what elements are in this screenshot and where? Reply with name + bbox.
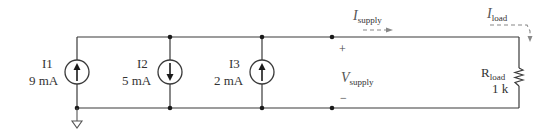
- i1-name-label: I1: [42, 56, 53, 71]
- i-supply-label: Isupply: [352, 8, 382, 25]
- node-dot: [260, 106, 265, 111]
- ground-icon: [72, 108, 82, 128]
- i-supply-arrow-icon: [363, 28, 393, 33]
- circuit-diagram: I1 9 mA I2 5 mA I3 2 mA + − Vsupply Isup…: [0, 0, 557, 138]
- plus-sign: +: [339, 42, 346, 56]
- supply-node-top: [330, 35, 335, 40]
- current-source-i3: [250, 37, 274, 108]
- resistor-icon: [515, 68, 523, 86]
- minus-sign: −: [340, 91, 347, 105]
- i2-name-label: I2: [137, 56, 148, 71]
- i2-value-label: 5 mA: [122, 73, 152, 88]
- r-load-value: 1 k: [492, 81, 509, 96]
- supply-node-bottom: [330, 106, 335, 111]
- current-source-i1: [65, 37, 89, 108]
- node-dot: [168, 35, 173, 40]
- i-load-label: Iload: [486, 6, 508, 23]
- node-dot: [168, 106, 173, 111]
- i-load-arrow-icon: [490, 25, 533, 42]
- node-dot: [260, 35, 265, 40]
- i3-value-label: 2 mA: [214, 73, 244, 88]
- current-source-i2: [158, 37, 182, 108]
- r-load-label: Rload: [481, 65, 506, 82]
- i1-value-label: 9 mA: [29, 73, 59, 88]
- i3-name-label: I3: [229, 56, 240, 71]
- v-supply-label: Vsupply: [341, 70, 374, 87]
